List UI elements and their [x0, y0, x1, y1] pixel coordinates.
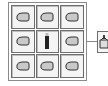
hand-icon [16, 12, 30, 22]
grid-slot-8[interactable] [36, 54, 60, 78]
hand-icon [65, 61, 79, 71]
output-slot[interactable] [97, 31, 108, 53]
grid-slot-4[interactable] [11, 30, 35, 54]
crafting-grid [8, 2, 87, 81]
grid-slot-1[interactable] [11, 5, 35, 29]
hand-icon [65, 36, 79, 46]
hand-icon [40, 61, 54, 71]
grid-slot-7[interactable] [11, 54, 35, 78]
hand-icon [16, 61, 30, 71]
grid-slot-5[interactable] [36, 30, 60, 54]
bucket-icon [99, 35, 108, 49]
grid-slot-9[interactable] [60, 54, 84, 78]
grid-slot-2[interactable] [36, 5, 60, 29]
connector-line [87, 41, 97, 42]
grid-slot-3[interactable] [60, 5, 84, 29]
hand-icon [40, 12, 54, 22]
hand-icon [65, 12, 79, 22]
stick-icon [44, 33, 50, 49]
grid-slot-6[interactable] [60, 30, 84, 54]
hand-icon [16, 36, 30, 46]
